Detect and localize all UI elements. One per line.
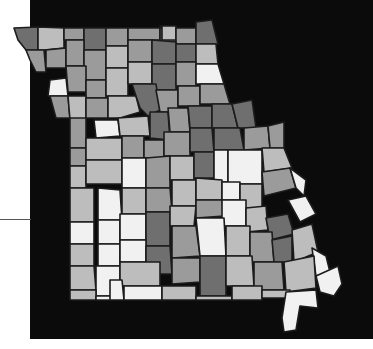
county-region	[170, 206, 196, 226]
county-region	[188, 106, 212, 128]
county-region	[84, 50, 106, 80]
county-region	[144, 140, 164, 158]
county-region	[70, 222, 94, 244]
county-region	[128, 62, 152, 84]
county-region	[26, 50, 46, 72]
county-region	[70, 244, 94, 266]
county-region	[196, 200, 224, 218]
county-region	[68, 96, 86, 120]
county-region	[196, 20, 218, 44]
county-region	[128, 40, 152, 62]
county-region	[124, 286, 162, 300]
county-region	[98, 188, 122, 220]
county-region	[66, 40, 84, 66]
county-region	[288, 196, 316, 222]
county-region	[172, 180, 196, 206]
county-region	[196, 64, 224, 84]
county-region	[178, 86, 200, 106]
county-region	[86, 98, 108, 118]
county-region	[176, 62, 196, 86]
county-region	[128, 28, 160, 40]
county-region	[64, 28, 84, 40]
county-region	[152, 40, 176, 64]
county-region	[46, 48, 66, 68]
county-region	[38, 27, 64, 50]
county-region	[48, 78, 68, 96]
county-region	[122, 158, 146, 188]
county-region	[146, 212, 170, 246]
county-region	[176, 28, 196, 44]
county-region	[176, 44, 196, 62]
county-region	[172, 226, 200, 258]
county-region	[168, 108, 190, 132]
county-region	[14, 27, 38, 50]
county-region	[120, 240, 146, 262]
county-region	[106, 46, 128, 68]
county-region	[268, 122, 284, 148]
county-region	[50, 96, 70, 118]
county-region	[70, 290, 96, 300]
county-region	[244, 126, 270, 150]
county-region	[196, 44, 218, 64]
county-region	[120, 214, 146, 240]
county-layer	[14, 20, 342, 332]
county-region	[272, 236, 292, 262]
county-region	[98, 220, 120, 244]
county-region	[146, 188, 172, 212]
county-region	[86, 160, 122, 184]
county-region	[118, 116, 150, 136]
county-region	[226, 226, 250, 256]
county-region	[120, 262, 160, 286]
county-region	[164, 132, 190, 156]
county-region	[282, 290, 318, 332]
county-region	[70, 266, 96, 290]
county-region	[214, 150, 228, 182]
missouri-county-map	[0, 0, 373, 349]
county-region	[194, 152, 214, 178]
county-region	[250, 232, 274, 262]
county-region	[98, 244, 120, 266]
county-region	[162, 26, 176, 40]
county-region	[106, 68, 128, 96]
county-region	[196, 296, 232, 300]
county-region	[228, 150, 262, 184]
county-region	[196, 218, 226, 256]
county-region	[70, 188, 94, 222]
county-region	[110, 280, 124, 300]
county-region	[86, 80, 106, 98]
county-region	[162, 286, 196, 300]
county-region	[84, 28, 106, 50]
county-region	[232, 286, 262, 300]
county-region	[200, 256, 226, 296]
county-region	[122, 188, 146, 214]
county-region	[172, 258, 200, 284]
county-region	[214, 128, 244, 150]
county-region	[106, 28, 128, 46]
county-region	[190, 128, 214, 152]
county-region	[196, 178, 222, 200]
county-region	[170, 156, 194, 180]
county-region	[222, 200, 246, 226]
county-region	[200, 84, 230, 104]
county-region	[86, 138, 122, 160]
county-region	[146, 156, 170, 188]
county-region	[108, 96, 140, 118]
county-region	[284, 256, 316, 292]
county-region	[70, 166, 86, 188]
county-region	[122, 136, 144, 158]
county-region	[66, 66, 86, 92]
county-region	[70, 148, 86, 166]
county-region	[94, 120, 120, 138]
county-region	[222, 182, 240, 200]
county-region	[70, 118, 86, 148]
county-region	[226, 256, 254, 286]
